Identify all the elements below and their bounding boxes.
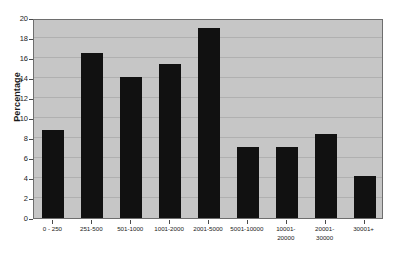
- bar: [159, 64, 181, 218]
- x-axis-tick-label: 5001-10000: [227, 225, 266, 234]
- bar: [42, 130, 64, 218]
- y-axis-tick-label: 0: [0, 215, 28, 223]
- bar: [198, 28, 220, 218]
- x-axis-tick-label: 20001- 30000: [305, 225, 344, 242]
- x-axis-tickmark: [364, 220, 365, 224]
- bar: [315, 134, 337, 218]
- x-axis-tick-label: 2001-5000: [189, 225, 228, 234]
- x-axis-tick-label: 251-500: [72, 225, 111, 234]
- x-axis-tickmark: [325, 220, 326, 224]
- x-axis-tick-label: 0 - 250: [33, 225, 72, 234]
- bar: [354, 176, 376, 218]
- y-axis-tick-label: 16: [0, 55, 28, 63]
- bar: [81, 53, 103, 218]
- x-axis-tick-label: 10001- 20000: [266, 225, 305, 242]
- y-axis-tick-label: 6: [0, 155, 28, 163]
- x-axis-tick-label: 1001-2000: [150, 225, 189, 234]
- x-axis-tickmark: [286, 220, 287, 224]
- y-axis-tick-label: 14: [0, 75, 28, 83]
- bar: [237, 147, 259, 218]
- y-axis-tick-label: 4: [0, 175, 28, 183]
- bar-chart: Percentage 02468101214161820 0 - 250251-…: [0, 0, 397, 263]
- y-axis-tick-label: 18: [0, 35, 28, 43]
- x-axis-tickmark: [52, 220, 53, 224]
- x-axis-tick-label: 501-1000: [111, 225, 150, 234]
- x-axis-tickmark: [130, 220, 131, 224]
- y-axis-tick-label: 2: [0, 195, 28, 203]
- x-axis-tick-label: 30001+: [344, 225, 383, 234]
- x-axis-tickmark: [169, 220, 170, 224]
- bar: [276, 147, 298, 218]
- plot-area: [33, 19, 383, 219]
- y-axis-tick-label: 10: [0, 115, 28, 123]
- x-axis-tickmark: [208, 220, 209, 224]
- x-axis-tickmark: [91, 220, 92, 224]
- x-axis-tickmark: [247, 220, 248, 224]
- y-axis-tick-label: 12: [0, 95, 28, 103]
- y-axis-tick-label: 8: [0, 135, 28, 143]
- y-axis-tickmark: [29, 219, 33, 220]
- y-axis-tick-label: 20: [0, 15, 28, 23]
- bar: [120, 77, 142, 218]
